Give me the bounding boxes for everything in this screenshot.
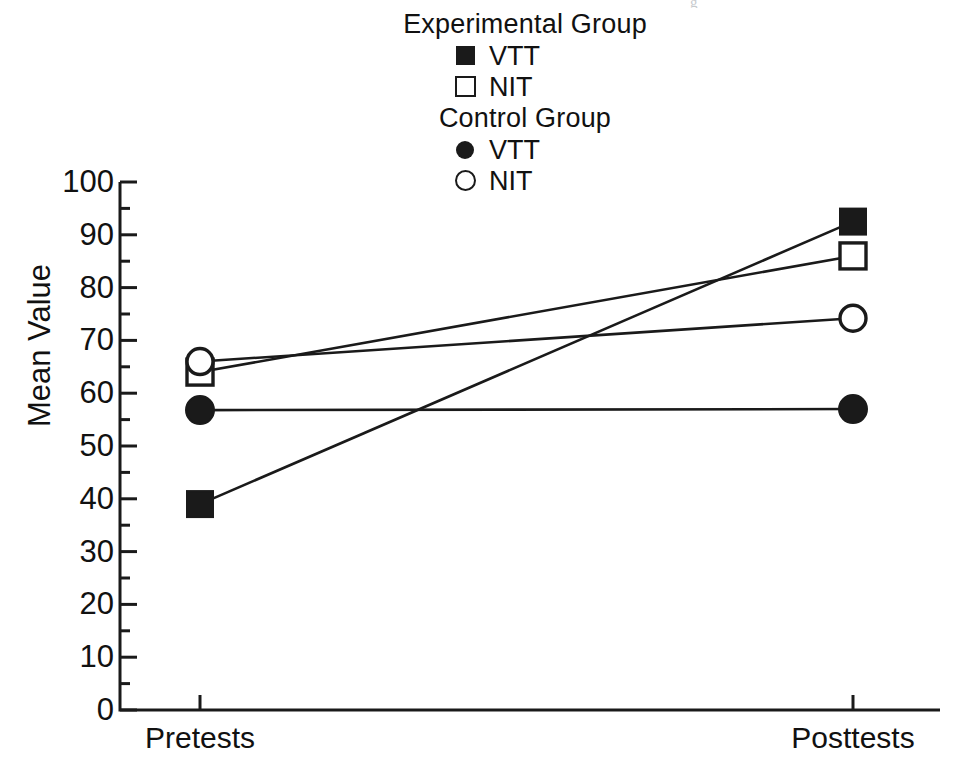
data-point-open-square[interactable] bbox=[840, 243, 866, 269]
y-axis-tick-label: 40 bbox=[8, 483, 114, 514]
data-point-filled-circle[interactable] bbox=[186, 396, 214, 424]
x-axis-tick-label-posttests: Posttests bbox=[791, 722, 914, 754]
series-line-filled-circle bbox=[200, 409, 853, 410]
x-axis-tick-label-pretests: Pretests bbox=[145, 722, 255, 754]
data-point-filled-square[interactable] bbox=[840, 209, 866, 235]
data-point-filled-circle[interactable] bbox=[839, 395, 867, 423]
y-axis-tick-label: 20 bbox=[8, 588, 114, 619]
y-axis-tick-label: 100 bbox=[8, 166, 114, 197]
y-axis-title: Mean Value bbox=[24, 221, 55, 471]
data-point-open-circle[interactable] bbox=[840, 305, 866, 331]
series-line-open-circle bbox=[200, 318, 853, 361]
line-chart-plot bbox=[0, 0, 958, 775]
chart-page: g Experimental Group VTT NIT Control Gro… bbox=[0, 0, 958, 775]
y-axis-tick-labels: 0102030405060708090100 bbox=[0, 0, 114, 775]
data-point-filled-square[interactable] bbox=[187, 491, 213, 517]
plot-svg bbox=[0, 0, 958, 775]
series-line-filled-square bbox=[200, 222, 853, 504]
y-axis-tick-label: 10 bbox=[8, 641, 114, 672]
y-axis-tick-label: 30 bbox=[8, 536, 114, 567]
data-point-open-circle[interactable] bbox=[187, 349, 213, 375]
y-axis-tick-label: 0 bbox=[8, 694, 114, 725]
